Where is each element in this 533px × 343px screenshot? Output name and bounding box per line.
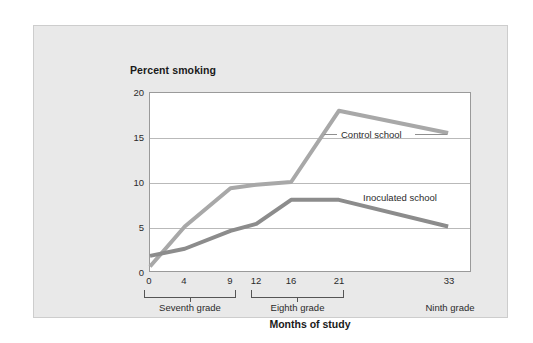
control-leader-line-right [415, 134, 447, 135]
chart-title: Percent smoking [130, 64, 216, 76]
series-label-inoculated: Inoculated school [363, 192, 437, 203]
y-axis-tick-5: 5 [120, 222, 144, 233]
x-axis-tick-16: 16 [280, 275, 302, 286]
plot-area [149, 92, 471, 272]
x-axis-tick-4: 4 [173, 275, 195, 286]
x-axis-tick-21: 21 [328, 275, 350, 286]
grade-label-seventh: Seventh grade [144, 302, 236, 313]
series-line-inoculated [150, 200, 448, 256]
x-axis-tick-9: 9 [219, 275, 241, 286]
y-axis-tick-15: 15 [120, 132, 144, 143]
bracket-eighth-grade [251, 290, 344, 298]
x-axis-tick-12: 12 [245, 275, 267, 286]
x-axis-tick-33: 33 [438, 275, 460, 286]
x-axis-title: Months of study [149, 318, 471, 330]
series-lines [150, 93, 470, 271]
control-leader-line-left [324, 134, 337, 135]
x-axis-tick-0: 0 [138, 275, 160, 286]
y-axis-tick-10: 10 [120, 177, 144, 188]
bracket-seventh-grade [144, 290, 236, 298]
grade-label-eighth: Eighth grade [251, 302, 344, 313]
grade-label-ninth: Ninth grade [409, 302, 491, 313]
series-label-control: Control school [341, 129, 402, 140]
figure-panel: Percent smoking 20 15 10 5 0 Control sch… [33, 25, 508, 318]
y-axis-tick-20: 20 [120, 87, 144, 98]
